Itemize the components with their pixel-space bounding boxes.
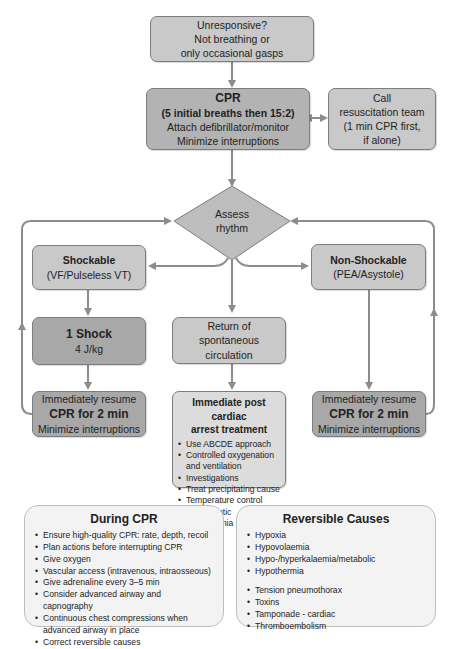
- assess-line-2: rhythm: [192, 221, 272, 235]
- start-unresponsive-box: Unresponsive? Not breathing or only occa…: [150, 16, 314, 62]
- reversible-cause-item: Hypoxia: [247, 530, 425, 542]
- resume-left-line-2: CPR for 2 min: [49, 406, 128, 422]
- shockable-title: Shockable: [63, 253, 116, 267]
- cpr-line-2: Minimize interruptions: [177, 134, 279, 148]
- rosc-line-2: spontaneous: [199, 333, 259, 347]
- resume-cpr-left-box: Immediately resume CPR for 2 min Minimiz…: [32, 391, 146, 437]
- post-arrest-title-2: arrest treatment: [191, 423, 267, 437]
- during-cpr-list: Ensure high-quality CPR: rate, depth, re…: [35, 530, 213, 649]
- shock-title: 1 Shock: [66, 326, 112, 342]
- resume-cpr-right-box: Immediately resume CPR for 2 min Minimiz…: [312, 391, 426, 437]
- assess-rhythm-label: Assess rhythm: [192, 207, 272, 235]
- during-cpr-panel: During CPR Ensure high-quality CPR: rate…: [24, 505, 224, 627]
- post-arrest-title-1: Immediate post cardiac: [178, 396, 280, 423]
- call-line-4: if alone): [363, 133, 400, 147]
- during-cpr-item: Plan actions before interrupting CPR: [35, 542, 213, 554]
- cpr-box: CPR (5 initial breaths then 15:2) Attach…: [146, 88, 310, 150]
- shock-box: 1 Shock 4 J/kg: [32, 317, 146, 365]
- rosc-box: Return of spontaneous circulation: [172, 317, 286, 364]
- reversible-causes-title: Reversible Causes: [247, 512, 425, 526]
- post-arrest-item: Treat precipitating cause: [178, 484, 280, 495]
- assess-line-1: Assess: [192, 207, 272, 221]
- during-cpr-item: Consider advanced airway and capnography: [35, 589, 213, 613]
- reversible-cause-item: Toxins: [247, 597, 425, 609]
- resume-right-line-3: Minimize interruptions: [318, 422, 420, 436]
- call-resuscitation-team-box: Call resuscitation team (1 min CPR first…: [328, 88, 436, 150]
- reversible-cause-item: Hypothermia: [247, 566, 425, 578]
- reversible-cause-item: Hypo-/hyperkalaemia/metabolic: [247, 554, 425, 566]
- call-line-2: resuscitation team: [339, 105, 424, 119]
- shock-subtitle: 4 J/kg: [75, 342, 103, 356]
- reversible-cause-item: Tension pneumothorax: [247, 585, 425, 597]
- during-cpr-title: During CPR: [35, 512, 213, 526]
- during-cpr-item: Continuous chest compressions when advan…: [35, 613, 213, 637]
- rosc-line-3: circulation: [205, 348, 252, 362]
- non-shockable-subtitle: (PEA/Asystole): [333, 267, 404, 281]
- post-arrest-item: Use ABCDE approach: [178, 439, 280, 450]
- shockable-box: Shockable (VF/Pulseless VT): [32, 245, 146, 290]
- during-cpr-item: Give adrenaline every 3–5 min: [35, 577, 213, 589]
- during-cpr-item: Give oxygen: [35, 554, 213, 566]
- reversible-cause-item: Tamponade - cardiac: [247, 609, 425, 621]
- call-line-3: (1 min CPR first,: [343, 119, 420, 133]
- during-cpr-item: Correct reversible causes: [35, 637, 213, 649]
- post-arrest-item: Controlled oxygenation and ventilation: [178, 450, 280, 473]
- resume-right-line-2: CPR for 2 min: [329, 406, 408, 422]
- reversible-causes-list: Hypoxia Hypovolaemia Hypo-/hyperkalaemia…: [247, 530, 425, 633]
- cpr-subtitle: (5 initial breaths then 15:2): [161, 106, 294, 120]
- rosc-line-1: Return of: [207, 319, 250, 333]
- resume-left-line-3: Minimize interruptions: [38, 422, 140, 436]
- reversible-cause-item: Hypovolaemia: [247, 542, 425, 554]
- non-shockable-box: Non-Shockable (PEA/Asystole): [311, 244, 426, 290]
- during-cpr-item: Vascular access (intravenous, intraosseo…: [35, 566, 213, 578]
- resume-right-line-1: Immediately resume: [322, 392, 417, 406]
- start-line-3: only occasional gasps: [181, 46, 284, 60]
- reversible-causes-panel: Reversible Causes Hypoxia Hypovolaemia H…: [236, 505, 436, 627]
- post-cardiac-arrest-box: Immediate post cardiac arrest treatment …: [172, 391, 286, 488]
- cpr-title: CPR: [215, 90, 240, 106]
- reversible-cause-item: Thromboembolism: [247, 621, 425, 633]
- start-line-1: Unresponsive?: [197, 18, 267, 32]
- post-arrest-item: Investigations: [178, 473, 280, 484]
- call-line-1: Call: [373, 91, 391, 105]
- during-cpr-item: Ensure high-quality CPR: rate, depth, re…: [35, 530, 213, 542]
- start-line-2: Not breathing or: [194, 32, 269, 46]
- resume-left-line-1: Immediately resume: [42, 392, 137, 406]
- shockable-subtitle: (VF/Pulseless VT): [47, 268, 132, 282]
- cpr-line-1: Attach defibrillator/monitor: [167, 120, 289, 134]
- non-shockable-title: Non-Shockable: [330, 253, 406, 267]
